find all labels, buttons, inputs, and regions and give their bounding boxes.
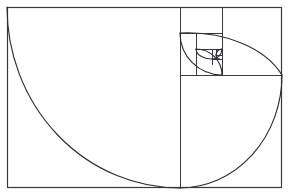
golden-spiral-figure: [0, 0, 289, 196]
golden-spiral-canvas: [0, 0, 289, 196]
outer-rectangle: [8, 8, 282, 188]
